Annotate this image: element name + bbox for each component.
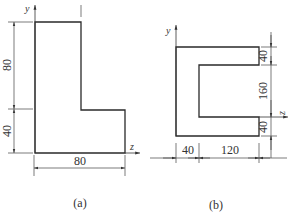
dim-label-web-opening-b: 160 (256, 82, 270, 100)
l-section-outline (35, 22, 125, 153)
caption-b: (b) (209, 198, 223, 212)
dim-label-40-a: 40 (0, 125, 14, 137)
dim-label-bottom-flange-b: 40 (256, 121, 270, 133)
figure-b: y z 40 160 40 40 120 (b) (150, 25, 288, 212)
y-axis-label-a: y (24, 3, 30, 14)
dim-label-flange-length-b: 120 (221, 143, 239, 157)
dim-label-web-thickness-b: 40 (182, 143, 194, 157)
c-section-outline (176, 47, 259, 136)
figure-a: y z 80 40 80 (a) (0, 3, 140, 210)
z-axis-label-b: z (276, 111, 287, 116)
dim-label-top-flange-b: 40 (256, 50, 270, 62)
caption-a: (a) (73, 196, 86, 210)
dim-label-80-a: 80 (0, 59, 14, 71)
y-axis-label-b: y (165, 25, 171, 36)
dim-label-width-a: 80 (74, 154, 86, 168)
z-axis-label-a: z (129, 141, 134, 152)
